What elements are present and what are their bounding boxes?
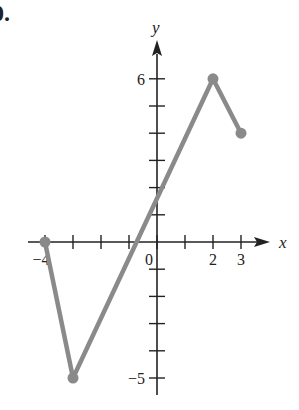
y-tick-label: 6 (137, 71, 145, 88)
graph-line (45, 79, 241, 378)
endpoint-dot (236, 128, 247, 139)
endpoint-dot (40, 237, 51, 248)
tick-labels: xy023−46−5 (32, 18, 287, 387)
data-series (40, 73, 247, 383)
y-axis-label: y (150, 18, 160, 37)
x-tick-label: 2 (209, 251, 217, 268)
x-tick-label: 0 (145, 251, 153, 268)
x-axis-label: x (278, 233, 287, 252)
x-tick-label: 3 (237, 251, 245, 268)
endpoint-dot (208, 73, 219, 84)
y-axis-arrow-icon (152, 40, 162, 56)
endpoint-dot (68, 373, 79, 384)
y-tick-label: −5 (128, 370, 145, 387)
graph: xy023−46−5 (0, 0, 299, 410)
